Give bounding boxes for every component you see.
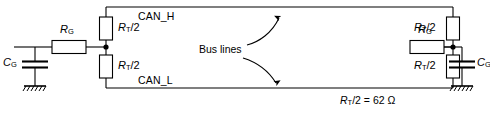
equation-equals: = [361, 94, 373, 106]
label-rt2-top-left-suffix: /2 [131, 21, 140, 33]
label-rg-right-symbol: R [418, 23, 426, 35]
label-rg-left-subscript: G [68, 27, 74, 36]
label-rt2-bottom-left: RT/2 [118, 60, 140, 72]
curved-arrow-up-icon [247, 18, 279, 45]
equation-rt2-value: RT/2 = 62Ω [340, 95, 395, 107]
label-rg-right: RG [418, 24, 432, 36]
label-rg-left-symbol: R [60, 23, 68, 35]
label-cg-left-symbol: C [3, 56, 11, 68]
label-rt2-bottom-right-suffix: /2 [427, 59, 436, 71]
label-rt2-bottom-left-suffix: /2 [131, 59, 140, 71]
label-cg-right: CG [477, 57, 490, 69]
equation-value: 62 [373, 94, 385, 106]
label-rt2-top-left-symbol: R [118, 21, 126, 33]
equation-divisor: /2 [352, 94, 361, 106]
label-cg-right-subscript: G [485, 60, 490, 69]
label-cg-left-subscript: G [11, 60, 17, 69]
ground-symbol-right [450, 86, 473, 91]
label-bus-lines: Bus lines [199, 44, 242, 55]
resistor-body-rg-right [410, 41, 444, 54]
label-rt2-top-left: RT/2 [118, 22, 140, 34]
label-rt2-bottom-left-symbol: R [118, 59, 126, 71]
label-rg-left: RG [60, 24, 74, 36]
label-rg-right-subscript: G [426, 27, 432, 36]
label-can-low: CAN_L [138, 75, 173, 86]
can-bus-termination-diagram: CAN_H CAN_L Bus lines RG CG RT/2 RT/2 RT… [0, 0, 490, 117]
label-rt2-bottom-right-symbol: R [414, 59, 422, 71]
equation-symbol: R [340, 94, 348, 106]
label-cg-right-symbol: C [477, 56, 485, 68]
label-rt2-bottom-right: RT/2 [414, 60, 436, 72]
equation-unit: Ω [388, 94, 396, 106]
capacitor-plates-right [449, 62, 475, 68]
label-can-high: CAN_H [138, 11, 175, 22]
label-cg-left: CG [3, 57, 17, 69]
curved-arrow-down-icon [243, 58, 276, 83]
